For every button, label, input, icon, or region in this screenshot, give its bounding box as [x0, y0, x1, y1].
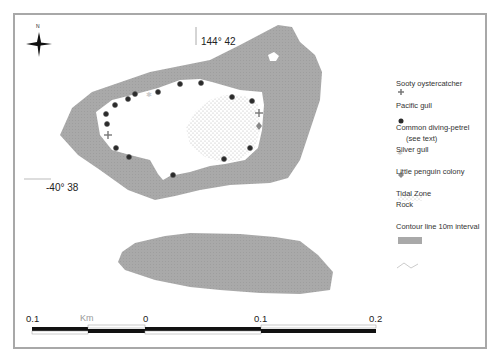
plus-icon — [396, 89, 479, 100]
scale-label-0: 0 — [143, 313, 148, 324]
legend-label-silver-gull: Silver gull — [396, 144, 479, 155]
south-island-rock — [118, 233, 333, 294]
scale-label-0.2: 0.2 — [369, 313, 382, 324]
filled-circle-icon — [396, 111, 479, 122]
dot-pattern-icon — [396, 177, 479, 188]
latitude-label: -40° 38 — [46, 182, 78, 193]
scale-unit: Km — [80, 313, 94, 323]
legend-label-sooty-oystercatcher: Sooty oystercatcher — [396, 78, 479, 89]
scale-label-0.1-right: 0.1 — [254, 313, 267, 324]
legend-label-rock: Rock — [396, 199, 479, 210]
scale-label-0.1-left: 0.1 — [26, 313, 39, 324]
legend-sublabel-see-text: (see text) — [396, 133, 479, 144]
legend-label-tidal-zone: Tidal Zone — [396, 188, 479, 199]
legend-label-penguin-colony: Little penguin colony — [396, 166, 479, 177]
legend-label-pacific-gull: Pacific gull — [396, 100, 479, 111]
north-label: N — [36, 23, 40, 29]
north-arrow-icon — [26, 32, 52, 57]
diving-petrel-marker: ✱ — [146, 91, 152, 98]
longitude-label: 144° 42 — [201, 36, 236, 47]
legend-label-contour: Contour line 10m interval — [396, 221, 479, 232]
diamond-icon — [396, 155, 479, 166]
grey-fill-icon — [396, 210, 479, 221]
scale-bar — [32, 325, 376, 334]
legend: Sooty oystercatcher Pacific gull Common … — [396, 78, 479, 232]
legend-label-diving-petrel: Common diving-petrel — [396, 122, 479, 133]
